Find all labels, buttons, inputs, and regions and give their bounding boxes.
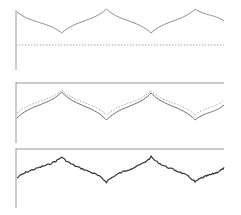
panel-3 [16, 148, 224, 208]
solid-curve [17, 92, 224, 120]
figure-canvas [0, 0, 241, 215]
dotted-curve [17, 90, 224, 115]
panel-2 [16, 82, 224, 143]
panel-1 [16, 9, 224, 70]
solid-curve [17, 9, 224, 33]
noisy-curve [17, 156, 224, 183]
